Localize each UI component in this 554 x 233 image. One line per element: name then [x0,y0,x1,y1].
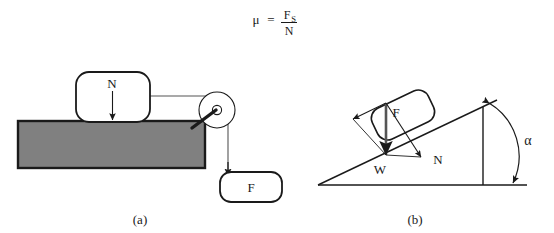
figure-canvas: μ = F S N N F [0,0,554,233]
panel-a-diagram: N F (a) [18,72,282,227]
applied-force-label: F [247,180,254,195]
normal-force-label: N [107,76,117,91]
formula-denominator: N [285,24,294,38]
angle-alpha-label: α [524,133,532,148]
gray-surface-block [18,121,205,168]
normal-force-label-b: N [433,152,443,167]
incline-block-group [368,86,439,143]
formula-mu-symbol: μ [253,12,260,27]
panel-b-diagram: W F N α (b) [318,86,532,227]
vector-parallelogram-side-right [386,155,421,157]
physics-figure: μ = F S N N F [0,0,554,233]
formula-numerator: F [284,8,291,22]
panel-a-caption: (a) [133,212,147,227]
panel-b-caption: (b) [407,212,422,227]
angle-alpha-arc [489,103,519,183]
incline-block [368,86,439,143]
weight-force-label: W [374,162,387,177]
friction-coefficient-formula: μ = F S N [253,8,297,38]
formula-equals-sign: = [267,12,274,27]
